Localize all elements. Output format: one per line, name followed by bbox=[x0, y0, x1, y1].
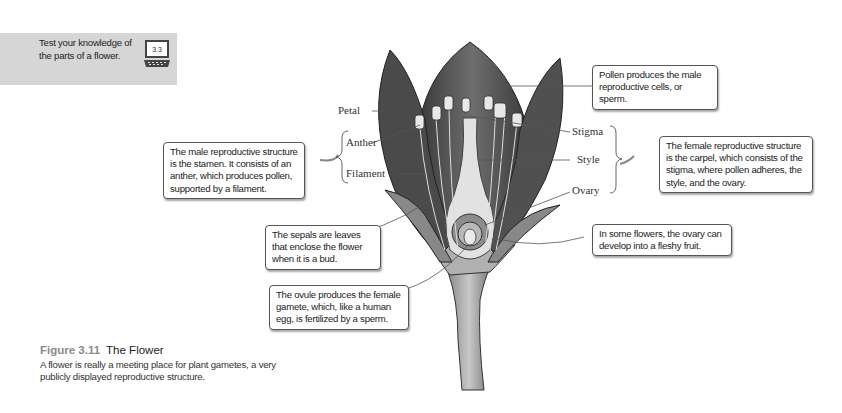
figure-caption-title: Figure 3.11The Flower bbox=[40, 344, 164, 356]
callout-fruit: In some flowers, the ovary can develop i… bbox=[592, 224, 732, 256]
callout-pollen: Pollen produces the male reproductive ce… bbox=[592, 65, 718, 110]
quiz-prompt-text: Test your knowledge of the parts of a fl… bbox=[39, 36, 139, 62]
svg-text:3.3: 3.3 bbox=[152, 46, 162, 53]
callout-carpel: The female reproductive structure is the… bbox=[659, 136, 813, 193]
figure-title: The Flower bbox=[106, 344, 164, 356]
callout-ovule: The ovule produces the female gamete, wh… bbox=[269, 285, 409, 330]
ovule bbox=[464, 229, 476, 245]
label-stigma: Stigma bbox=[572, 125, 603, 137]
label-petal: Petal bbox=[338, 104, 360, 116]
callout-sepals: The sepals are leaves that enclose the f… bbox=[265, 225, 381, 270]
quiz-prompt-box[interactable]: Test your knowledge of the parts of a fl… bbox=[0, 33, 177, 85]
label-filament: Filament bbox=[346, 167, 385, 179]
figure-number: Figure 3.11 bbox=[40, 344, 100, 356]
computer-icon: 3.3 bbox=[143, 40, 171, 68]
label-anther: Anther bbox=[346, 136, 377, 148]
label-style: Style bbox=[577, 153, 600, 165]
figure-caption-body: A flower is really a meeting place for p… bbox=[40, 359, 290, 383]
label-ovary: Ovary bbox=[572, 184, 600, 196]
callout-stamen: The male reproductive structure is the s… bbox=[163, 142, 305, 199]
stem bbox=[448, 268, 490, 390]
